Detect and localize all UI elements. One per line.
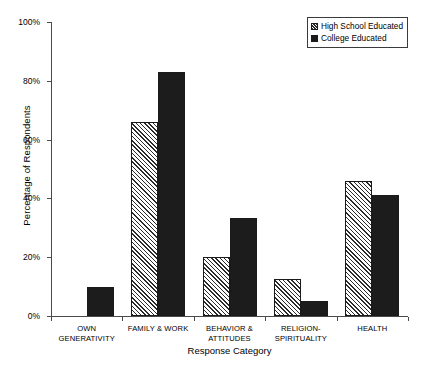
- x-tick: [337, 317, 338, 321]
- chart-legend: High School Educated College Educated: [307, 17, 408, 48]
- x-tick: [265, 317, 266, 321]
- x-tick: [194, 317, 195, 321]
- y-tick-label: 0%: [28, 311, 40, 321]
- bar-high-school: [345, 181, 372, 316]
- bar-college: [87, 287, 114, 316]
- y-tick-label: 40%: [23, 193, 40, 203]
- category-label: FAMILY & WORK: [128, 324, 189, 334]
- y-tick-label: 80%: [23, 76, 40, 86]
- category-label: OWN GENERATIVITY: [59, 324, 115, 344]
- legend-label: High School Educated: [321, 21, 403, 31]
- y-tick-label: 100%: [18, 17, 40, 27]
- y-axis-line: [51, 22, 52, 317]
- y-tick: 60%: [47, 140, 51, 141]
- y-tick: 20%: [47, 257, 51, 258]
- category-label: RELIGION- SPIRITUALITY: [275, 324, 327, 344]
- legend-label: College Educated: [321, 33, 387, 43]
- bar-high-school: [131, 122, 158, 316]
- bar-college: [230, 218, 257, 316]
- legend-swatch-hatch-icon: [311, 23, 318, 30]
- y-tick-label: 20%: [23, 252, 40, 262]
- category-label: HEALTH: [357, 324, 387, 334]
- bar-college: [372, 195, 399, 316]
- x-axis-title: Response Category: [51, 345, 408, 356]
- legend-swatch-solid-icon: [311, 35, 318, 42]
- bar-chart: Percentage of Respondents 0%20%40%60%80%…: [0, 0, 421, 368]
- legend-item-high-school: High School Educated: [311, 20, 403, 32]
- y-tick-label: 60%: [23, 135, 40, 145]
- bar-college: [301, 301, 328, 316]
- y-axis-title: Percentage of Respondents: [21, 66, 32, 266]
- y-tick: 100%: [47, 22, 51, 23]
- x-tick: [51, 317, 52, 321]
- x-tick: [408, 317, 409, 321]
- plot-area: 0%20%40%60%80%100% OWN GENERATIVITYFAMIL…: [51, 22, 408, 317]
- bar-college: [158, 72, 185, 316]
- category-label: BEHAVIOR & ATTITUDES: [206, 324, 253, 344]
- x-tick: [122, 317, 123, 321]
- bar-high-school: [203, 257, 230, 316]
- y-tick: 40%: [47, 198, 51, 199]
- legend-item-college: College Educated: [311, 32, 403, 44]
- y-tick: 80%: [47, 81, 51, 82]
- x-axis-line: [51, 316, 408, 317]
- bar-high-school: [274, 279, 301, 316]
